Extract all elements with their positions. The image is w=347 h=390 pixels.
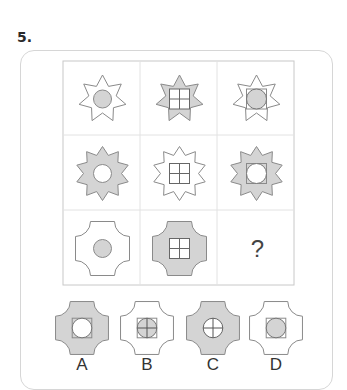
- option-label: A: [76, 355, 88, 374]
- matrix-cell: [153, 222, 207, 276]
- option-c[interactable]: C: [187, 302, 240, 374]
- inner-circle: [94, 240, 112, 258]
- matrix-cell: [154, 147, 205, 201]
- inner-circle: [72, 318, 92, 338]
- inner-circle: [266, 318, 286, 338]
- matrix-cell: [156, 75, 203, 121]
- option-a[interactable]: A: [56, 302, 109, 374]
- inner-circle: [247, 89, 267, 109]
- matrix-cell: [77, 147, 128, 201]
- inner-circle: [247, 164, 267, 184]
- option-label: D: [270, 355, 282, 374]
- missing-cell-question-mark: ?: [251, 235, 264, 262]
- matrix-cells: ?: [76, 75, 283, 276]
- option-label: B: [141, 355, 152, 374]
- matrix-cell: ?: [251, 235, 264, 262]
- inner-circle: [94, 165, 112, 183]
- answer-options: ABCD: [56, 302, 303, 374]
- matrix-cell: [231, 147, 282, 201]
- option-label: C: [207, 355, 219, 374]
- matrix-cell: [79, 75, 126, 121]
- inner-circle: [94, 90, 112, 108]
- matrix-cell: [233, 75, 280, 121]
- matrix-cell: [76, 222, 130, 276]
- option-d[interactable]: D: [250, 302, 303, 374]
- option-b[interactable]: B: [121, 302, 174, 374]
